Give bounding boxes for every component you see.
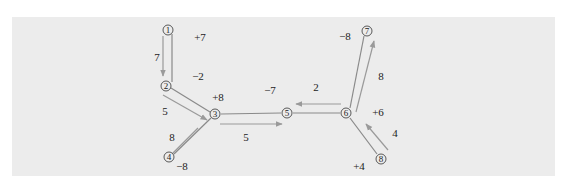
node-7: 7 bbox=[362, 26, 372, 36]
svg-text:5: 5 bbox=[285, 108, 290, 118]
label-5-left: 5 bbox=[162, 105, 168, 117]
label-8-right: 8 bbox=[378, 70, 384, 82]
label-minus8-top: −8 bbox=[339, 30, 351, 42]
flow-diagram: 1 2 3 4 5 6 7 8 +7 7 −2 +8 5 8 −8 5 −7 2… bbox=[0, 0, 567, 187]
svg-text:7: 7 bbox=[365, 26, 370, 36]
label-minus8-bottom: −8 bbox=[176, 160, 188, 172]
edge-3-4 bbox=[174, 118, 211, 154]
svg-text:3: 3 bbox=[213, 109, 218, 119]
svg-text:8: 8 bbox=[379, 154, 384, 164]
edge-6-8 bbox=[350, 118, 377, 154]
edge-2-3 bbox=[171, 88, 210, 112]
node-3: 3 bbox=[210, 109, 220, 119]
svg-text:4: 4 bbox=[167, 152, 172, 162]
node-5: 5 bbox=[282, 108, 292, 118]
node-4: 4 bbox=[164, 152, 174, 162]
label-minus7: −7 bbox=[264, 84, 276, 96]
label-8-left: 8 bbox=[169, 131, 175, 143]
label-plus6: +6 bbox=[372, 106, 384, 118]
flow-arrows bbox=[163, 36, 388, 160]
svg-text:2: 2 bbox=[164, 81, 169, 91]
label-plus4: +4 bbox=[353, 160, 365, 172]
label-plus7: +7 bbox=[194, 31, 206, 43]
label-2: 2 bbox=[313, 81, 319, 93]
label-4: 4 bbox=[392, 127, 398, 139]
edge-3-5 bbox=[221, 113, 281, 114]
node-6: 6 bbox=[341, 108, 351, 118]
svg-text:1: 1 bbox=[166, 25, 171, 35]
node-8: 8 bbox=[376, 154, 386, 164]
label-minus2: −2 bbox=[192, 70, 204, 82]
label-plus8: +8 bbox=[212, 91, 224, 103]
arrow-8-6 bbox=[366, 124, 388, 150]
node-2: 2 bbox=[161, 81, 171, 91]
arrow-6-7 bbox=[356, 41, 374, 112]
arrow-2-3 bbox=[163, 95, 207, 120]
label-5-bottom: 5 bbox=[243, 131, 249, 143]
node-1: 1 bbox=[163, 25, 173, 35]
svg-text:6: 6 bbox=[344, 108, 349, 118]
edge-6-7 bbox=[350, 36, 364, 108]
label-7: 7 bbox=[154, 51, 160, 63]
edge-labels: +7 7 −2 +8 5 8 −8 5 −7 2 −8 8 +6 4 +4 bbox=[154, 30, 398, 172]
